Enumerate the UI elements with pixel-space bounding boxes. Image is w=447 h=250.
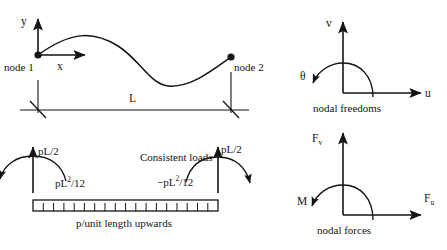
- right-moment-denominator: /12: [179, 176, 193, 188]
- force-fu-label: Fu: [424, 193, 434, 207]
- nodal-freedoms-caption: nodal freedoms: [313, 103, 381, 114]
- right-moment-label: −pL2/12: [157, 175, 193, 188]
- figure-canvas: y x node 1 node 2 L pL/2 pL/2 pL2/12 −pL…: [0, 0, 447, 250]
- deflected-shape-curve: [38, 36, 231, 87]
- consistent-loads-caption: Consistent loads: [140, 152, 212, 163]
- distributed-load-caption: p/unit length upwards: [76, 218, 172, 229]
- forces-panel-graphics: [312, 133, 421, 220]
- node1-label: node 1: [4, 62, 34, 73]
- force-fv-subscript: v: [318, 138, 322, 147]
- freedom-u-label: u: [425, 88, 431, 100]
- force-fv-label: Fv: [312, 133, 322, 147]
- freedom-v-label: v: [326, 18, 332, 30]
- span-length-label: L: [129, 93, 136, 105]
- diagram-vector-layer: [0, 0, 447, 250]
- x-axis-label: x: [57, 61, 63, 73]
- left-shear-label: pL/2: [38, 146, 59, 157]
- left-moment-denominator: /12: [71, 177, 85, 189]
- left-moment-label: pL2/12: [55, 176, 85, 189]
- right-shear-label: pL/2: [221, 144, 242, 155]
- node2-marker: [227, 53, 234, 60]
- y-axis-label: y: [21, 16, 27, 28]
- force-fu-subscript: u: [430, 198, 434, 207]
- nodal-forces-caption: nodal forces: [317, 225, 371, 236]
- right-moment-base: pL: [163, 176, 175, 188]
- freedoms-panel-graphics: [313, 22, 421, 97]
- freedom-theta-label: θ: [300, 71, 306, 83]
- force-moment-label: M: [297, 196, 307, 208]
- node1-marker: [34, 51, 41, 58]
- left-moment-base: pL: [55, 177, 67, 189]
- distributed-load-ticks: [43, 203, 208, 211]
- node2-label: node 2: [234, 62, 264, 73]
